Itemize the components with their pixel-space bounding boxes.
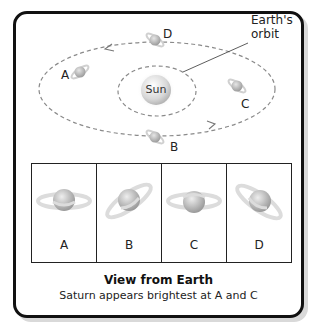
orbit-arrow-icon (105, 44, 114, 51)
orbit-arrow-icon (207, 121, 215, 129)
position-label-c: C (241, 98, 249, 110)
panel-label-a: A (32, 238, 96, 252)
sun-label: Sun (141, 83, 171, 96)
earth-orbit-label-line2: orbit (251, 27, 293, 41)
earth-orbit-label-line1: Earth's (251, 13, 293, 27)
saturn-position-a-icon (70, 63, 90, 80)
saturn-position-b-icon (145, 128, 165, 145)
view-panel-d: D (227, 164, 291, 262)
earth-orbit-label: Earth's orbit (251, 13, 293, 41)
view-panels: A B C D (31, 163, 292, 263)
caption-title: View from Earth (13, 273, 304, 287)
caption-subtitle: Saturn appears brightest at A and C (13, 289, 304, 302)
view-panel-b: B (97, 164, 162, 262)
panel-label-d: D (227, 238, 291, 252)
view-panel-a: A (32, 164, 97, 262)
earth-orbit-leader-line (183, 43, 248, 72)
position-label-b: B (170, 141, 178, 153)
saturn-position-c-icon (227, 77, 247, 94)
position-label-d: D (163, 28, 172, 40)
position-label-a: A (61, 69, 69, 81)
view-panel-c: C (162, 164, 227, 262)
panel-label-b: B (97, 238, 161, 252)
panel-label-c: C (162, 238, 226, 252)
